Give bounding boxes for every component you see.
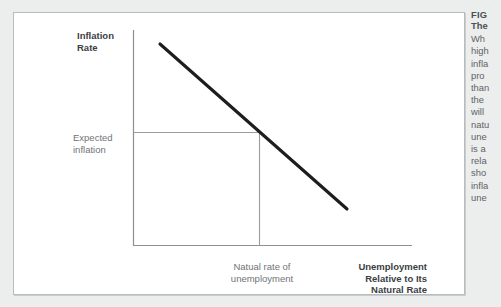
figure-page: Inflation Rate Expected inflation Natual…	[0, 0, 501, 307]
figure-caption: FIG The Whhighinflaprothanthewillnatuune…	[471, 9, 501, 204]
caption-line: infla	[471, 180, 501, 192]
x-axis-label: Unemployment Relative to Its Natural Rat…	[314, 261, 427, 296]
caption-body: Whhighinflaprothanthewillnatuuneis arela…	[471, 33, 501, 204]
expected-inflation-label: Expected inflation	[73, 132, 113, 155]
caption-line: rela	[471, 155, 501, 167]
caption-line: high	[471, 45, 501, 57]
caption-line: than	[471, 82, 501, 94]
caption-line: Wh	[471, 33, 501, 45]
caption-line: infla	[471, 58, 501, 70]
caption-line: natu	[471, 119, 501, 131]
phillips-curve-line	[160, 44, 347, 209]
caption-line: will	[471, 106, 501, 118]
caption-line: sho	[471, 167, 501, 179]
caption-line: the	[471, 94, 501, 106]
caption-subheading: The	[471, 20, 501, 32]
figure-card: Inflation Rate Expected inflation Natual…	[13, 12, 465, 295]
caption-line: une	[471, 131, 501, 143]
caption-line: pro	[471, 70, 501, 82]
caption-line: is a	[471, 143, 501, 155]
y-axis-label: Inflation Rate	[77, 30, 114, 53]
caption-line: une	[471, 192, 501, 204]
caption-heading: FIG	[471, 9, 501, 20]
natural-rate-label: Natual rate of unemployment	[210, 261, 314, 284]
